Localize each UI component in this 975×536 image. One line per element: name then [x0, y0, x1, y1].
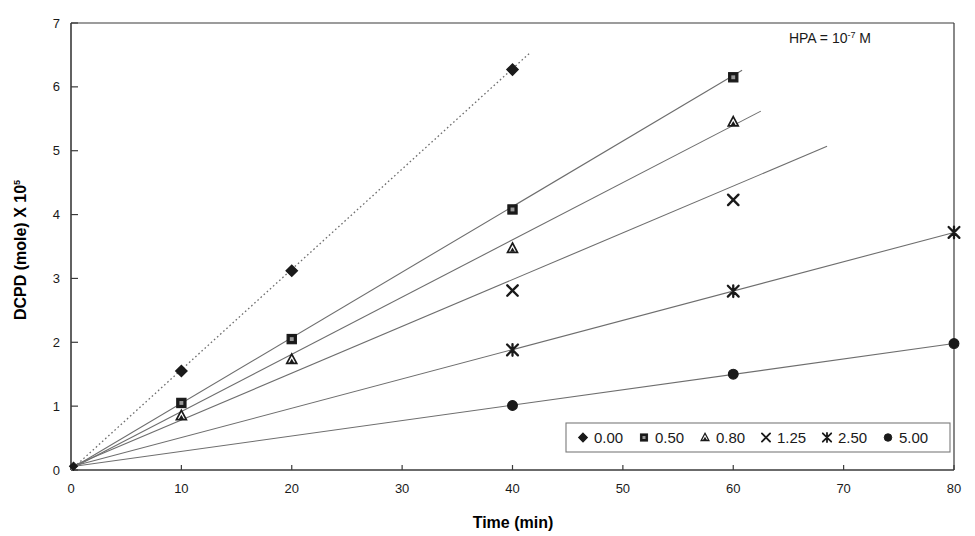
legend-label: 5.00 — [899, 429, 928, 446]
legend-marker-circle — [884, 434, 892, 442]
circle-marker — [884, 434, 892, 442]
x-tick-label: 40 — [505, 481, 519, 496]
annotation-prefix: HPA = 10 — [789, 30, 848, 46]
x-tick-label: 70 — [836, 481, 850, 496]
data-point-0.50-10 — [177, 398, 186, 407]
legend-label: 2.50 — [838, 429, 867, 446]
x-tick-label: 10 — [174, 481, 188, 496]
legend-label: 0.80 — [716, 429, 745, 446]
x-tick-label: 0 — [67, 481, 74, 496]
x-tick-label: 60 — [726, 481, 740, 496]
annotation-hpa: HPA = 10-7 M — [789, 30, 871, 46]
annotation-suffix: M — [855, 30, 871, 46]
square-marker-inner — [290, 337, 294, 341]
circle-marker — [728, 369, 738, 379]
square-marker-inner — [179, 401, 183, 405]
y-tick-label: 0 — [53, 463, 60, 478]
square-marker-inner — [731, 75, 735, 79]
data-point-5.00-80 — [949, 339, 959, 349]
legend-marker-square — [640, 434, 647, 441]
circle-marker — [949, 339, 959, 349]
y-tick-label: 4 — [53, 207, 60, 222]
data-point-0.50-20 — [287, 334, 296, 343]
y-tick-label: 7 — [53, 16, 60, 31]
square-marker-inner — [642, 436, 645, 439]
x-tick-label: 50 — [616, 481, 630, 496]
circle-marker — [508, 401, 518, 411]
y-tick-label: 5 — [53, 143, 60, 158]
data-point-0.50-60 — [729, 73, 738, 82]
square-marker-inner — [511, 208, 515, 212]
y-axis-title: DCPD (mole) X 105 — [12, 180, 29, 320]
x-tick-label: 80 — [947, 481, 961, 496]
legend-label: 1.25 — [777, 429, 806, 446]
y-tick-label: 2 — [53, 335, 60, 350]
y-axis-title-exponent: 5 — [12, 180, 22, 185]
chart-legend: 0.000.500.801.252.505.00 — [566, 423, 950, 452]
x-axis-title: Time (min) — [473, 514, 554, 531]
chart-figure: 01234567 01020304050607080 DCPD (mole) X… — [0, 0, 975, 536]
x-tick-label: 20 — [285, 481, 299, 496]
legend-label: 0.50 — [655, 429, 684, 446]
legend-box — [566, 423, 950, 452]
annotation-exponent: -7 — [847, 30, 855, 40]
legend-label: 0.00 — [594, 429, 623, 446]
y-tick-label: 3 — [53, 271, 60, 286]
y-tick-label: 6 — [53, 79, 60, 94]
y-tick-label: 1 — [53, 399, 60, 414]
data-point-5.00-60 — [728, 369, 738, 379]
x-tick-label: 30 — [395, 481, 409, 496]
svg-text:DCPD (mole) X 105: DCPD (mole) X 105 — [12, 180, 29, 320]
data-point-5.00-40 — [508, 401, 518, 411]
data-point-0.50-40 — [508, 205, 517, 214]
chart-canvas: 01234567 01020304050607080 DCPD (mole) X… — [0, 0, 975, 536]
figure-background — [0, 0, 975, 536]
y-axis-title-text: DCPD (mole) X 10 — [12, 185, 29, 320]
